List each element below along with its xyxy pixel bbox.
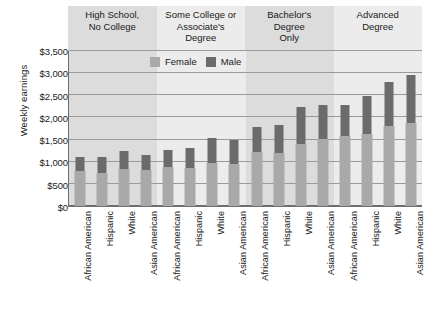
x-label-group-3: African AmericanHispanicWhiteAsian Ameri… bbox=[245, 209, 334, 314]
bar-group-3 bbox=[246, 51, 334, 206]
bar-female[interactable] bbox=[185, 168, 196, 206]
bar-female[interactable] bbox=[383, 126, 394, 206]
bar-slot[interactable] bbox=[312, 51, 334, 206]
bar-slot[interactable] bbox=[268, 51, 290, 206]
bar-slot[interactable] bbox=[69, 51, 91, 206]
bar-slot[interactable] bbox=[378, 51, 400, 206]
group-header-1: High School, No College bbox=[68, 6, 157, 51]
x-label-slot: Asian American bbox=[223, 209, 245, 314]
legend-swatch-icon bbox=[150, 57, 160, 67]
bar-female[interactable] bbox=[295, 144, 306, 206]
bar-group-4 bbox=[334, 51, 422, 206]
bar-female[interactable] bbox=[229, 164, 240, 207]
legend-label: Male bbox=[221, 56, 242, 67]
bar-slot[interactable] bbox=[290, 51, 312, 206]
bar-female[interactable] bbox=[361, 134, 372, 206]
x-label-group-1: African AmericanHispanicWhiteAsian Ameri… bbox=[68, 209, 157, 314]
legend-label: Female bbox=[165, 56, 197, 67]
y-tick-label: $3,000 bbox=[40, 68, 68, 79]
bar-female[interactable] bbox=[251, 152, 262, 206]
legend-item-male: Male bbox=[206, 56, 242, 67]
group-header-bands: High School, No CollegeSome College or A… bbox=[68, 6, 422, 51]
x-label-slot: White bbox=[201, 209, 223, 314]
bar-slot[interactable] bbox=[91, 51, 113, 206]
bar-slot[interactable] bbox=[246, 51, 268, 206]
bar-group-1 bbox=[69, 51, 157, 206]
x-label-slot: Hispanic bbox=[356, 209, 378, 314]
bar-slot[interactable] bbox=[157, 51, 179, 206]
bar-slot[interactable] bbox=[179, 51, 201, 206]
y-axis-tick-labels: $3,500$3,000$2,500$2,000$1,500$1,000$500… bbox=[14, 45, 68, 213]
bar-female[interactable] bbox=[75, 171, 86, 206]
bar-female[interactable] bbox=[317, 139, 328, 206]
bar-slot[interactable] bbox=[334, 51, 356, 206]
bar-female[interactable] bbox=[97, 173, 108, 206]
x-label-slot: African American bbox=[68, 209, 90, 314]
x-label-group-2: African AmericanHispanicWhiteAsian Ameri… bbox=[157, 209, 246, 314]
bar-slot[interactable] bbox=[113, 51, 135, 206]
y-tick-label: $1,500 bbox=[40, 135, 68, 146]
x-label-slot: African American bbox=[245, 209, 267, 314]
group-header-2: Some College or Associate's Degree bbox=[157, 6, 246, 51]
bars-layer bbox=[69, 51, 422, 206]
x-label-slot: Asian American bbox=[134, 209, 156, 314]
bar-female[interactable] bbox=[163, 167, 174, 206]
plot-area bbox=[68, 51, 422, 207]
x-axis-tick-labels: African AmericanHispanicWhiteAsian Ameri… bbox=[68, 209, 422, 314]
x-label-slot: African American bbox=[157, 209, 179, 314]
bar-slot[interactable] bbox=[201, 51, 223, 206]
bar-female[interactable] bbox=[273, 153, 284, 206]
x-label-slot: White bbox=[289, 209, 311, 314]
y-tick-label: $3,500 bbox=[40, 46, 68, 57]
bar-female[interactable] bbox=[141, 170, 152, 206]
bar-female[interactable] bbox=[339, 136, 350, 206]
bar-female[interactable] bbox=[207, 163, 218, 206]
y-tick-label: $500 bbox=[47, 179, 68, 190]
x-label-slot: Asian American bbox=[311, 209, 333, 314]
bar-slot[interactable] bbox=[135, 51, 157, 206]
x-label-slot: Hispanic bbox=[179, 209, 201, 314]
x-label-slot: Hispanic bbox=[267, 209, 289, 314]
x-label-slot: White bbox=[112, 209, 134, 314]
legend: FemaleMale bbox=[150, 56, 241, 67]
x-label-slot: African American bbox=[334, 209, 356, 314]
group-header-4: Advanced Degree bbox=[334, 6, 423, 51]
x-label-slot: White bbox=[378, 209, 400, 314]
bar-slot[interactable] bbox=[400, 51, 422, 206]
bar-female[interactable] bbox=[119, 169, 130, 206]
y-tick-label: $2,000 bbox=[40, 112, 68, 123]
legend-item-female: Female bbox=[150, 56, 197, 67]
x-label-slot: Asian American bbox=[400, 209, 422, 314]
y-tick-label: $2,500 bbox=[40, 90, 68, 101]
bar-slot[interactable] bbox=[223, 51, 245, 206]
bar-slot[interactable] bbox=[356, 51, 378, 206]
bar-female[interactable] bbox=[405, 123, 416, 206]
x-label-slot: Hispanic bbox=[90, 209, 112, 314]
x-tick-label: Asian American bbox=[415, 211, 425, 275]
y-tick-label: $0 bbox=[58, 202, 68, 213]
legend-swatch-icon bbox=[206, 57, 216, 67]
bar-group-2 bbox=[157, 51, 245, 206]
y-tick-label: $1,000 bbox=[40, 157, 68, 168]
group-header-3: Bachelor's Degree Only bbox=[245, 6, 334, 51]
x-label-group-4: African AmericanHispanicWhiteAsian Ameri… bbox=[334, 209, 423, 314]
